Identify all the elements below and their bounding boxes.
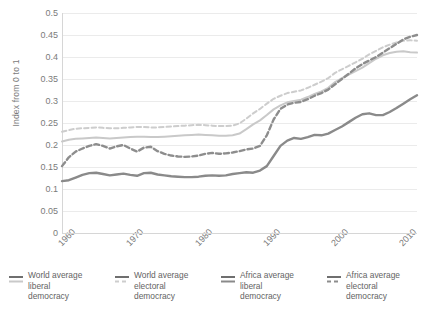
legend-label: World average electoral democracy: [134, 270, 188, 302]
legend-item[interactable]: World average liberal democracy: [9, 270, 101, 324]
legend-label: Africa average electoral democracy: [346, 270, 400, 302]
legend-item[interactable]: Africa average electoral democracy: [327, 270, 419, 324]
chart-legend: World average liberal democracyWorld ave…: [0, 270, 424, 324]
legend-line-icon: [115, 272, 129, 281]
legend-line-icon: [9, 272, 23, 281]
legend-item[interactable]: World average electoral democracy: [115, 270, 207, 324]
line-chart: Index from 0 to 1 00.050.10.150.20.250.3…: [0, 0, 424, 324]
legend-label: Africa average liberal democracy: [240, 270, 294, 302]
legend-item[interactable]: Africa average liberal democracy: [221, 270, 313, 324]
series-line-1: [62, 40, 417, 132]
legend-label: World average liberal democracy: [28, 270, 82, 302]
legend-line-icon: [327, 272, 341, 281]
legend-line-icon: [221, 272, 235, 281]
